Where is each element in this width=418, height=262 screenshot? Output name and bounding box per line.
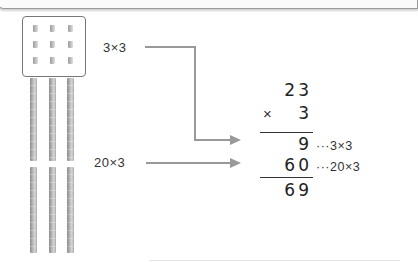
arrowhead-icon — [230, 158, 241, 168]
sum-rule — [260, 177, 313, 178]
unit-cube — [68, 25, 73, 32]
unit-cube — [33, 41, 38, 48]
unit-cube — [68, 57, 73, 64]
unit-cube — [33, 25, 38, 32]
top-panel-border — [0, 0, 418, 9]
unit-cube — [50, 57, 55, 64]
tens-label: 20×3 — [94, 155, 125, 170]
tens-rod — [30, 78, 37, 161]
tens-rod — [49, 78, 56, 161]
unit-cube — [50, 25, 55, 32]
unit-cube — [68, 41, 73, 48]
unit-cube — [33, 57, 38, 64]
ones-arrow-vertical — [194, 46, 196, 141]
unit-cube — [50, 41, 55, 48]
final-product: 69 — [252, 180, 312, 200]
partial-product-2-note: ···20×3 — [316, 160, 360, 174]
bottom-divider — [150, 260, 400, 261]
ones-block-box — [22, 16, 86, 77]
partial-product-2: 60 — [252, 155, 312, 175]
multiplier: 3 — [252, 103, 312, 123]
tens-rod — [67, 167, 74, 253]
ones-arrow-bottom — [194, 139, 232, 141]
arrowhead-icon — [230, 135, 241, 145]
tens-rod — [49, 167, 56, 253]
ones-label: 3×3 — [103, 40, 127, 55]
product-rule — [260, 132, 313, 133]
tens-arrow-line — [146, 162, 232, 164]
multiplicand: 23 — [252, 80, 312, 100]
partial-product-1-note: ···3×3 — [316, 139, 353, 153]
tens-rod — [67, 78, 74, 161]
ones-arrow-horizontal — [145, 46, 196, 48]
tens-rod — [30, 167, 37, 253]
partial-product-1: 9 — [252, 134, 312, 154]
